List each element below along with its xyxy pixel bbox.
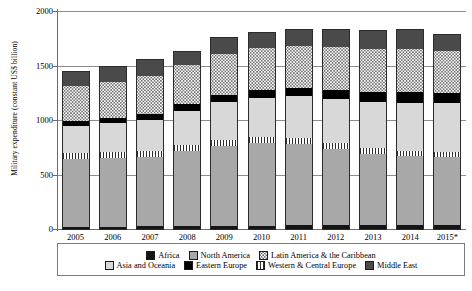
bar-segment-meast <box>286 30 312 46</box>
legend-swatch-africa-icon <box>146 251 155 260</box>
x-axis-label-2009: 2009 <box>204 232 244 242</box>
y-tick-label-1500: 1500 <box>36 61 53 71</box>
bar-segment-africa <box>211 226 237 229</box>
bar-2014 <box>397 30 423 229</box>
y-tick-label-1000: 1000 <box>36 115 53 125</box>
legend-item-namerica[interactable]: North America <box>189 251 251 260</box>
bar-segment-namerica <box>211 146 237 226</box>
bar-segment-meast <box>211 38 237 54</box>
bar-segment-eeurope <box>323 90 349 99</box>
bar-segment-eeurope <box>434 93 460 103</box>
x-axis-label-2005: 2005 <box>56 232 96 242</box>
bar-segment-africa <box>174 226 200 229</box>
bar-segment-meast <box>360 31 386 49</box>
bar-segment-eeurope <box>249 90 275 98</box>
y-tick-label-0: 0 <box>49 224 53 234</box>
legend-swatch-latam-icon <box>259 251 268 260</box>
legend-item-wceurope[interactable]: Western & Central Europe <box>256 261 356 270</box>
bar-segment-namerica <box>397 156 423 224</box>
bar-segment-eeurope <box>174 104 200 111</box>
bar-segment-namerica <box>174 151 200 226</box>
x-axis-line <box>57 229 466 230</box>
bar-2005 <box>63 72 89 229</box>
bar-segment-africa <box>249 226 275 229</box>
bar-segment-asia <box>249 98 275 137</box>
bar-segment-latam <box>397 49 423 92</box>
bar-segment-asia <box>137 120 163 151</box>
x-axis-label-2006: 2006 <box>93 232 133 242</box>
legend-row-2: Asia and OceaniaEastern EuropeWestern & … <box>105 261 418 270</box>
legend-row-1: AfricaNorth AmericaLatin America & the C… <box>146 251 375 260</box>
y-tick-label-500: 500 <box>40 170 53 180</box>
bar-segment-namerica <box>286 144 312 226</box>
y-tick-mark-0 <box>53 229 58 230</box>
bar-segment-africa <box>63 227 89 229</box>
bar-segment-namerica <box>249 143 275 226</box>
legend-item-meast[interactable]: Middle East <box>365 261 417 270</box>
bar-segment-latam <box>360 49 386 92</box>
bar-segment-eeurope <box>360 92 386 102</box>
bar-segment-namerica <box>434 157 460 225</box>
legend-label: North America <box>201 251 251 260</box>
bar-segment-eeurope <box>286 88 312 97</box>
x-axis-label-2007: 2007 <box>130 232 170 242</box>
legend-label: Africa <box>158 251 179 260</box>
bar-segment-latam <box>137 76 163 114</box>
bar-segment-latam <box>286 46 312 88</box>
bar-segment-meast <box>63 72 89 86</box>
x-axis-label-2010: 2010 <box>242 232 282 242</box>
bar-segment-latam <box>323 47 349 90</box>
bar-segment-namerica <box>360 154 386 225</box>
bar-segment-africa <box>286 225 312 229</box>
bar-segment-africa <box>434 225 460 229</box>
legend-item-asia[interactable]: Asia and Oceania <box>105 261 176 270</box>
legend-label: Eastern Europe <box>196 261 247 270</box>
stacked-bar-chart: Military expenditure (constant US$ billi… <box>0 0 472 291</box>
legend-swatch-wceurope-icon <box>256 261 265 270</box>
x-axis-label-2012: 2012 <box>316 232 356 242</box>
bar-segment-meast <box>174 52 200 65</box>
x-axis-label-2015: 2015* <box>427 232 467 242</box>
bar-2013 <box>360 31 386 229</box>
bar-segment-asia <box>434 103 460 152</box>
bar-segment-asia <box>360 102 386 148</box>
bar-segment-meast <box>323 30 349 48</box>
bar-segment-latam <box>249 48 275 89</box>
bar-segment-asia <box>63 126 89 153</box>
legend-item-latam[interactable]: Latin America & the Caribbean <box>259 251 376 260</box>
bar-segment-asia <box>286 96 312 137</box>
legend-label: Middle East <box>377 261 417 270</box>
bar-2006 <box>100 67 126 229</box>
x-axis-label-2013: 2013 <box>353 232 393 242</box>
bar-segment-asia <box>100 123 126 152</box>
bar-segment-asia <box>174 111 200 145</box>
bar-segment-namerica <box>100 158 126 226</box>
legend-item-eeurope[interactable]: Eastern Europe <box>184 261 247 270</box>
bar-segment-latam <box>100 82 126 118</box>
bar-segment-meast <box>397 30 423 50</box>
bar-segment-africa <box>323 225 349 229</box>
x-axis-label-2008: 2008 <box>167 232 207 242</box>
legend-swatch-namerica-icon <box>189 251 198 260</box>
bar-segment-meast <box>100 67 126 82</box>
bar-segment-africa <box>100 227 126 229</box>
bar-segment-latam <box>63 86 89 121</box>
bar-2010 <box>249 33 275 229</box>
legend-swatch-eeurope-icon <box>184 261 193 270</box>
legend-label: Latin America & the Caribbean <box>271 251 376 260</box>
bar-2008 <box>174 52 200 229</box>
legend-label: Asia and Oceania <box>117 261 176 270</box>
bar-segment-africa <box>360 225 386 229</box>
bar-segment-meast <box>434 35 460 51</box>
bar-segment-eeurope <box>397 92 423 102</box>
bar-segment-latam <box>211 54 237 95</box>
y-tick-label-2000: 2000 <box>36 6 53 16</box>
bar-2012 <box>323 30 349 229</box>
legend-item-africa[interactable]: Africa <box>146 251 179 260</box>
bar-segment-africa <box>137 226 163 229</box>
bar-segment-meast <box>249 33 275 48</box>
x-axis-label-2011: 2011 <box>279 232 319 242</box>
bar-2015 <box>434 35 460 229</box>
plot-area: 0500100015002000 <box>57 11 466 229</box>
bar-segment-eeurope <box>211 95 237 103</box>
